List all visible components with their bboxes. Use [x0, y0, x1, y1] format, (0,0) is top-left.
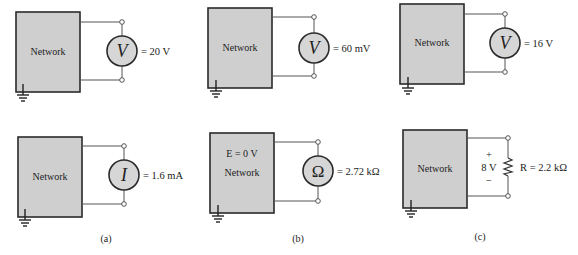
plus-sign: +	[486, 149, 492, 160]
terminal	[316, 199, 321, 204]
panel-caption: (b)	[292, 233, 304, 245]
meter-reading: = 60 mV	[333, 43, 371, 54]
terminal	[506, 136, 511, 141]
panel-c-top: Network V = 16 V	[400, 4, 553, 94]
network-label: Network	[415, 37, 450, 48]
network-label: Network	[33, 171, 68, 182]
panel-b-top: Network V = 60 mV	[208, 8, 371, 97]
panel-c-bottom: Network + 8 V − R = 2.2 kΩ (c)	[403, 130, 567, 243]
resistor-label: R = 2.2 kΩ	[520, 162, 567, 173]
panel-caption: (a)	[100, 233, 111, 245]
terminal	[122, 144, 127, 149]
source-label: E = 0 V	[226, 148, 258, 159]
network-label: Network	[225, 167, 260, 178]
terminal	[312, 74, 317, 79]
network-label: Network	[223, 42, 258, 53]
network-label: Network	[418, 163, 453, 174]
resistor-icon	[504, 158, 512, 176]
network-label: Network	[31, 46, 66, 57]
panel-caption: (c)	[474, 231, 485, 243]
terminal	[503, 12, 508, 17]
terminal	[312, 15, 317, 20]
meter-reading: = 16 V	[524, 38, 553, 49]
terminal	[506, 194, 511, 199]
meter-symbol: I	[120, 165, 128, 185]
minus-sign: −	[486, 175, 492, 186]
terminal	[316, 140, 321, 145]
meter-reading: = 1.6 mA	[143, 170, 183, 181]
terminal	[120, 78, 125, 83]
terminal	[120, 20, 125, 25]
terminal	[122, 202, 127, 207]
voltage-label: 8 V	[481, 162, 497, 173]
meter-reading: = 2.72 kΩ	[337, 166, 380, 177]
meter-symbol: Ω	[312, 162, 325, 181]
panel-a-bottom: Network I = 1.6 mA (a)	[18, 137, 183, 245]
panel-b-bottom: E = 0 V Network Ω = 2.72 kΩ (b)	[210, 133, 380, 245]
panel-a-top: Network V = 20 V	[16, 12, 170, 101]
terminal	[503, 70, 508, 75]
meter-reading: = 20 V	[141, 46, 170, 57]
figure-canvas: Network V = 20 V Network	[0, 0, 578, 255]
